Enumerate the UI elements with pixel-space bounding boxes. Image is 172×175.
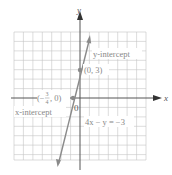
- coordinate-graph: y x 0 y-intercept (0, 3) (− 3 4 , 0) x-i…: [0, 0, 172, 175]
- y-axis-label: y: [76, 5, 81, 15]
- x-intercept-point-open: (−: [37, 93, 45, 103]
- equation-label: 4x − y = −3: [85, 117, 125, 127]
- y-intercept-point-label: (0, 3): [84, 65, 103, 75]
- x-intercept-fraction-numerator: 3: [46, 91, 49, 97]
- y-intercept-annotation: y-intercept: [93, 49, 130, 59]
- line-arrow-bottom-icon: [56, 159, 61, 167]
- x-axis-label: x: [163, 93, 168, 103]
- y-intercept-point: [78, 68, 82, 72]
- x-intercept-point: [71, 96, 75, 100]
- x-intercept-annotation: x-intercept: [15, 107, 52, 117]
- axes: [11, 18, 155, 170]
- x-axis-arrow-icon: [153, 95, 162, 101]
- x-intercept-fraction-denominator: 4: [46, 99, 49, 105]
- x-intercept-point-close: , 0): [50, 93, 62, 103]
- origin-label: 0: [74, 103, 79, 113]
- line-arrow-top-icon: [86, 35, 91, 44]
